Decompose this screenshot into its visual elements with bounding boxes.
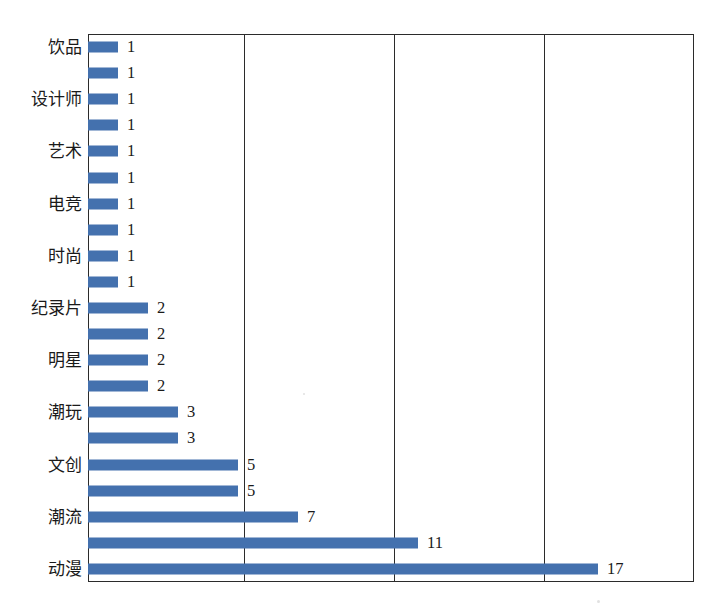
- bar-value-label: 2: [157, 378, 165, 395]
- category-tick: 潮流: [0, 504, 82, 530]
- bar[interactable]: [88, 381, 148, 392]
- bar-row[interactable]: 3: [88, 425, 694, 451]
- bar-row[interactable]: 1: [88, 34, 694, 60]
- bar-row[interactable]: 5: [88, 478, 694, 504]
- category-label: 艺术: [48, 143, 82, 160]
- bar-row[interactable]: 1: [88, 243, 694, 269]
- bar-value-label: 2: [157, 300, 165, 317]
- scan-speck: [303, 393, 305, 395]
- bar-row[interactable]: 1: [88, 138, 694, 164]
- category-tick: 纪录片: [0, 295, 82, 321]
- bar[interactable]: [88, 355, 148, 366]
- bar-value-label: 1: [127, 195, 135, 212]
- category-tick: 艺术: [0, 138, 82, 164]
- bar-row[interactable]: 1: [88, 191, 694, 217]
- bar-series: 11111111112222335571117: [88, 34, 694, 582]
- bar-value-label: 1: [127, 117, 135, 134]
- category-label: 动漫: [48, 560, 82, 577]
- bar-row[interactable]: 11: [88, 530, 694, 556]
- bar-value-label: 17: [607, 561, 624, 578]
- category-label: 潮流: [48, 508, 82, 525]
- category-label: 设计师: [31, 91, 82, 108]
- bar[interactable]: [88, 42, 118, 53]
- bar-value-label: 11: [427, 535, 443, 552]
- bar-row[interactable]: 1: [88, 86, 694, 112]
- category-label: 时尚: [48, 247, 82, 264]
- bar[interactable]: [88, 302, 148, 313]
- category-tick: 动漫: [0, 556, 82, 582]
- bar-value-label: 1: [127, 143, 135, 160]
- bar-value-label: 1: [127, 65, 135, 82]
- category-tick: [0, 530, 82, 556]
- bar-row[interactable]: 3: [88, 399, 694, 425]
- category-tick: [0, 164, 82, 190]
- category-axis: 饮品设计师艺术电竞时尚纪录片明星潮玩文创潮流动漫: [0, 34, 82, 582]
- category-tick: 电竞: [0, 191, 82, 217]
- bar[interactable]: [88, 329, 148, 340]
- category-tick: [0, 425, 82, 451]
- bar[interactable]: [88, 485, 238, 496]
- bar-row[interactable]: 1: [88, 269, 694, 295]
- category-tick: 潮玩: [0, 399, 82, 425]
- category-label: 电竞: [48, 195, 82, 212]
- bar-value-label: 3: [187, 404, 195, 421]
- bar-row[interactable]: 2: [88, 347, 694, 373]
- bar-value-label: 1: [127, 248, 135, 265]
- bar[interactable]: [88, 250, 118, 261]
- bar[interactable]: [88, 433, 178, 444]
- category-tick: [0, 60, 82, 86]
- bar[interactable]: [88, 68, 118, 79]
- bar-row[interactable]: 1: [88, 217, 694, 243]
- bar-value-label: 2: [157, 326, 165, 343]
- category-tick: [0, 217, 82, 243]
- bar-chart: 饮品设计师艺术电竞时尚纪录片明星潮玩文创潮流动漫 111111111122223…: [0, 0, 727, 613]
- bar[interactable]: [88, 94, 118, 105]
- bar[interactable]: [88, 224, 118, 235]
- category-tick: 文创: [0, 452, 82, 478]
- bar[interactable]: [88, 146, 118, 157]
- bar-row[interactable]: 5: [88, 452, 694, 478]
- category-tick: [0, 269, 82, 295]
- category-tick: [0, 321, 82, 347]
- category-tick: [0, 478, 82, 504]
- bar-row[interactable]: 2: [88, 295, 694, 321]
- bar-value-label: 7: [307, 508, 315, 525]
- category-tick: [0, 373, 82, 399]
- category-tick: 设计师: [0, 86, 82, 112]
- bar-row[interactable]: 17: [88, 556, 694, 582]
- bar-value-label: 1: [127, 39, 135, 56]
- category-label: 潮玩: [48, 404, 82, 421]
- bar[interactable]: [88, 407, 178, 418]
- bar-value-label: 5: [247, 456, 255, 473]
- bar-value-label: 1: [127, 221, 135, 238]
- category-label: 文创: [48, 456, 82, 473]
- category-label: 饮品: [48, 39, 82, 56]
- bar[interactable]: [88, 511, 298, 522]
- bar-row[interactable]: 7: [88, 504, 694, 530]
- bar-value-label: 1: [127, 169, 135, 186]
- category-tick: 明星: [0, 347, 82, 373]
- category-tick: 时尚: [0, 243, 82, 269]
- bar-row[interactable]: 1: [88, 112, 694, 138]
- bar-row[interactable]: 1: [88, 60, 694, 86]
- bar[interactable]: [88, 198, 118, 209]
- bar-value-label: 1: [127, 91, 135, 108]
- bar-value-label: 2: [157, 352, 165, 369]
- bar-value-label: 3: [187, 430, 195, 447]
- category-tick: [0, 112, 82, 138]
- bar[interactable]: [88, 537, 418, 548]
- bar-row[interactable]: 2: [88, 373, 694, 399]
- bar[interactable]: [88, 276, 118, 287]
- bar[interactable]: [88, 563, 598, 574]
- bar[interactable]: [88, 172, 118, 183]
- bar-row[interactable]: 2: [88, 321, 694, 347]
- category-label: 明星: [48, 352, 82, 369]
- bar-row[interactable]: 1: [88, 164, 694, 190]
- category-label: 纪录片: [31, 299, 82, 316]
- bar[interactable]: [88, 459, 238, 470]
- bar-value-label: 1: [127, 274, 135, 291]
- bar-value-label: 5: [247, 482, 255, 499]
- bar[interactable]: [88, 120, 118, 131]
- scan-speck: [597, 600, 600, 603]
- category-tick: 饮品: [0, 34, 82, 60]
